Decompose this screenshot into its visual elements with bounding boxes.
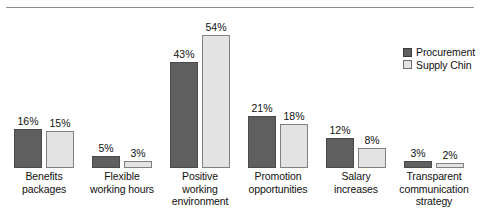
category-label-line: strategy — [378, 195, 480, 208]
bar-group: 16%15% — [13, 0, 75, 168]
bar-column: 5% — [92, 0, 120, 168]
bar-group: 12%8% — [325, 0, 387, 168]
bar-pair: 12%8% — [325, 0, 387, 168]
bar-pair: 3%2% — [403, 0, 465, 168]
legend-label-procurement: Procurement — [416, 47, 475, 58]
chart-legend: Procurement Supply Chin — [403, 47, 475, 70]
legend-swatch-icon-procurement — [403, 48, 412, 57]
bar-group: 3%2% — [403, 0, 465, 168]
bar-column: 12% — [326, 0, 354, 168]
bar-column: 16% — [14, 0, 42, 168]
category-label-line: communication — [378, 183, 480, 196]
bar-value-label: 43% — [173, 49, 194, 60]
bar-chart: Procurement Supply Chin 16%15%5%3%43%54%… — [0, 0, 480, 222]
bar-column: 18% — [280, 0, 308, 168]
bar-value-label: 12% — [329, 125, 350, 136]
legend-item-supply-chin[interactable]: Supply Chin — [403, 60, 475, 71]
bar-column: 54% — [202, 0, 230, 168]
bar[interactable] — [14, 129, 42, 168]
bar-pair: 43%54% — [169, 0, 231, 168]
bar-group: 43%54% — [169, 0, 231, 168]
bar-pair: 16%15% — [13, 0, 75, 168]
bar[interactable] — [124, 161, 152, 168]
bar[interactable] — [46, 131, 74, 168]
bar-column: 2% — [436, 0, 464, 168]
bar[interactable] — [404, 161, 432, 168]
bar-column: 21% — [248, 0, 276, 168]
bar-group: 21%18% — [247, 0, 309, 168]
category-label-line: Transparent — [378, 170, 480, 183]
bar[interactable] — [358, 148, 386, 168]
category-label-line: environment — [144, 195, 256, 208]
bar-group: 5%3% — [91, 0, 153, 168]
bar[interactable] — [92, 156, 120, 168]
legend-item-procurement[interactable]: Procurement — [403, 47, 475, 58]
bar[interactable] — [280, 124, 308, 168]
bar[interactable] — [202, 35, 230, 168]
legend-swatch-icon-supply-chin — [403, 60, 412, 69]
bar-column: 8% — [358, 0, 386, 168]
bar-value-label: 18% — [283, 111, 304, 122]
bar[interactable] — [436, 163, 464, 168]
legend-label-supply-chin: Supply Chin — [416, 60, 472, 71]
bar[interactable] — [248, 116, 276, 168]
bar-pair: 5%3% — [91, 0, 153, 168]
bar-value-label: 3% — [410, 148, 425, 159]
bar-value-label: 8% — [364, 135, 379, 146]
category-label: Transparentcommunicationstrategy — [378, 170, 480, 208]
bar-value-label: 54% — [205, 22, 226, 33]
category-axis: BenefitspackagesFlexibleworking hoursPos… — [0, 170, 480, 222]
bar[interactable] — [326, 138, 354, 168]
bar-value-label: 21% — [251, 103, 272, 114]
bar-value-label: 2% — [442, 150, 457, 161]
bar-value-label: 15% — [49, 118, 70, 129]
bar-value-label: 16% — [17, 116, 38, 127]
bar[interactable] — [170, 62, 198, 168]
plot-area: 16%15%5%3%43%54%21%18%12%8%3%2% — [0, 0, 480, 168]
bar-column: 3% — [124, 0, 152, 168]
bar-value-label: 3% — [130, 148, 145, 159]
bar-pair: 21%18% — [247, 0, 309, 168]
bar-column: 15% — [46, 0, 74, 168]
bar-column: 3% — [404, 0, 432, 168]
bar-column: 43% — [170, 0, 198, 168]
bar-value-label: 5% — [98, 143, 113, 154]
